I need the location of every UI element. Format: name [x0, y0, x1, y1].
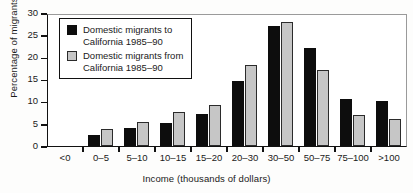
- bar-series-0-cat-8: [340, 99, 353, 146]
- y-axis-tick-10: 10: [0, 102, 47, 103]
- x-tick-mark: [298, 147, 300, 152]
- legend-label-series-0: Domestic migrants to California 1985–90: [83, 24, 172, 47]
- y-tick-label: 30: [27, 7, 38, 18]
- bar-series-1-cat-1: [101, 129, 114, 146]
- bar-series-1-cat-2: [137, 122, 150, 146]
- x-tick-label-7: 50–75: [304, 152, 330, 163]
- y-tick-label: 0: [33, 140, 38, 151]
- legend-label-series-0-line1: Domestic migrants to: [83, 24, 172, 35]
- y-tick-label: 10: [27, 95, 38, 106]
- y-axis-tick-20: 20: [0, 58, 47, 59]
- x-tick-label-8: 75–100: [337, 152, 369, 163]
- bar-series-1-cat-6: [281, 22, 294, 146]
- bar-series-0-cat-9: [376, 101, 389, 146]
- x-tick-label-9: >100: [378, 152, 399, 163]
- legend-item-from-california: Domestic migrants from California 1985–9…: [67, 50, 183, 73]
- x-tick-label-6: 30–50: [268, 152, 294, 163]
- y-tick-label: 5: [33, 118, 38, 129]
- x-tick-label-3: 10–15: [160, 152, 186, 163]
- bar-chart: Percentage of migrants Income (thousands…: [0, 0, 413, 193]
- legend-label-series-0-line2: California 1985–90: [83, 36, 163, 47]
- legend-label-series-1-line2: California 1985–90: [83, 62, 163, 73]
- bar-series-0-cat-3: [160, 123, 173, 146]
- bar-series-1-cat-5: [245, 65, 258, 146]
- x-axis-title: Income (thousands of dollars): [0, 173, 413, 184]
- legend-item-to-california: Domestic migrants to California 1985–90: [67, 24, 183, 47]
- bar-series-0-cat-6: [268, 26, 281, 146]
- bar-series-0-cat-4: [196, 114, 209, 146]
- bar-series-1-cat-9: [389, 119, 402, 146]
- x-tick-mark: [154, 147, 156, 152]
- x-tick-label-4: 15–20: [196, 152, 222, 163]
- x-tick-mark: [190, 147, 192, 152]
- legend-swatch-series-0: [67, 25, 77, 35]
- x-tick-label-2: 5–10: [126, 152, 147, 163]
- y-axis-tick-0: 0: [0, 146, 47, 147]
- chart-legend: Domestic migrants to California 1985–90 …: [59, 18, 192, 79]
- bar-series-0-cat-5: [232, 81, 245, 146]
- legend-label-series-1-line1: Domestic migrants from: [83, 50, 183, 61]
- x-tick-label-1: 0–5: [93, 152, 109, 163]
- x-tick-label-5: 20–30: [232, 152, 258, 163]
- x-tick-mark: [82, 147, 84, 152]
- y-axis-tick-25: 25: [0, 35, 47, 36]
- legend-swatch-series-1: [67, 51, 77, 61]
- bar-series-1-cat-4: [209, 105, 222, 146]
- bar-series-0-cat-1: [88, 135, 101, 146]
- bar-series-1-cat-3: [173, 112, 186, 146]
- y-axis-tick-15: 15: [0, 80, 47, 81]
- x-tick-mark: [118, 147, 120, 152]
- bar-series-1-cat-7: [317, 70, 330, 146]
- y-axis-tick-30: 30: [0, 13, 47, 14]
- y-tick-label: 25: [27, 29, 38, 40]
- y-tick-label: 15: [27, 73, 38, 84]
- x-tick-mark: [334, 147, 336, 152]
- bar-series-0-cat-2: [124, 128, 137, 146]
- bar-series-0-cat-7: [304, 48, 317, 146]
- legend-label-series-1: Domestic migrants from California 1985–9…: [83, 50, 183, 73]
- bar-series-1-cat-8: [353, 115, 366, 146]
- y-tick-label: 20: [27, 51, 38, 62]
- x-tick-mark: [226, 147, 228, 152]
- x-tick-mark: [370, 147, 372, 152]
- y-axis-title: Percentage of migrants: [8, 0, 19, 108]
- x-tick-mark: [262, 147, 264, 152]
- y-axis-tick-5: 5: [0, 124, 47, 125]
- x-tick-label-0: <0: [60, 152, 71, 163]
